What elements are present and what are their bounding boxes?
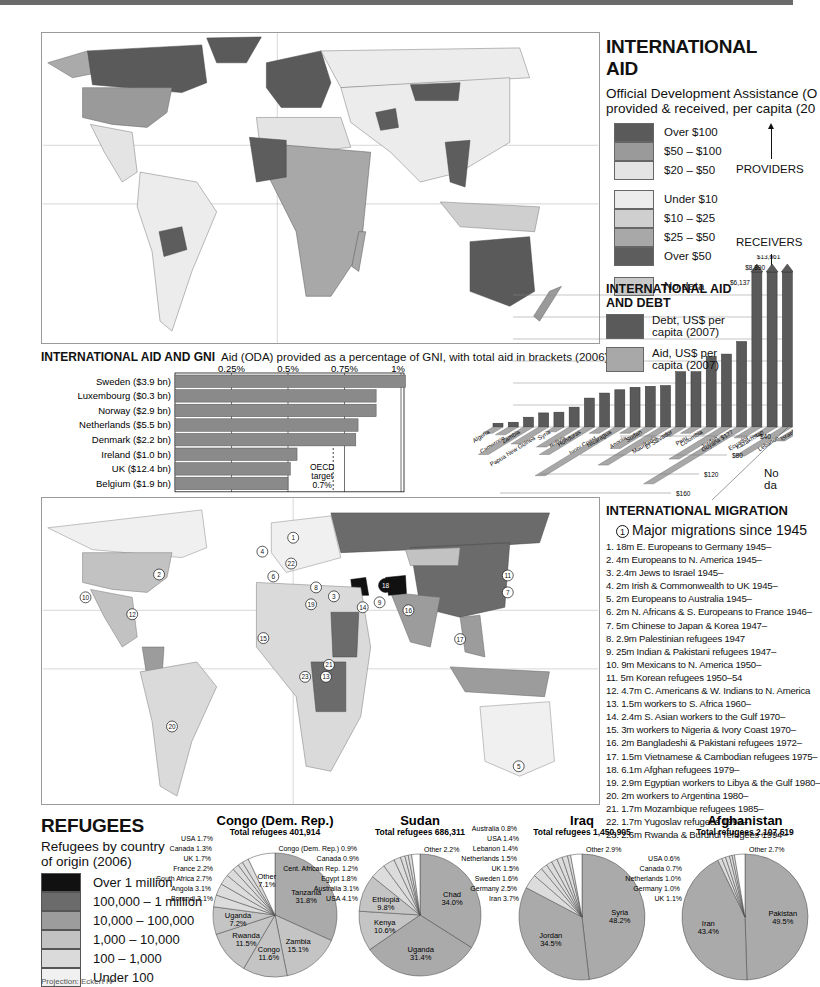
migration-marker[interactable]: 19 bbox=[306, 599, 317, 610]
region-mongolia-2[interactable] bbox=[405, 548, 460, 566]
migration-marker[interactable]: 15 bbox=[258, 633, 269, 644]
region-canada-2[interactable] bbox=[48, 510, 207, 558]
migration-marker[interactable]: 10 bbox=[80, 592, 91, 603]
svg-text:6: 6 bbox=[272, 573, 276, 580]
migration-marker[interactable]: 17 bbox=[455, 634, 466, 645]
migration-marker[interactable]: 2 bbox=[154, 569, 165, 580]
pie-slice-value: 31.4% bbox=[410, 953, 432, 962]
migration-marker[interactable]: 11 bbox=[502, 570, 513, 581]
migration-marker[interactable]: 18 bbox=[379, 578, 393, 592]
region-greenland[interactable] bbox=[207, 37, 262, 63]
migration-marker[interactable]: 3 bbox=[328, 591, 339, 602]
region-usa[interactable] bbox=[83, 88, 172, 128]
pie-chart-svg: SudanTotal refugees 686,311Chad34.0%Ugan… bbox=[335, 813, 491, 987]
pie-callout-label: Germany 2.5% bbox=[470, 885, 517, 893]
region-indonesia-2[interactable] bbox=[450, 667, 549, 697]
migration-marker[interactable]: 12 bbox=[127, 609, 138, 620]
provider-legend-label: $50 – $100 bbox=[664, 145, 722, 157]
gni-category-label: Netherlands ($5.5 bn) bbox=[79, 419, 171, 430]
migration-marker[interactable]: 20 bbox=[167, 721, 178, 732]
debt-annotation: $13,661 bbox=[757, 255, 781, 260]
projection-note: Projection: Eckert IV bbox=[41, 977, 113, 986]
gni-category-label: Norway ($2.9 bn) bbox=[98, 405, 171, 416]
region-africa-west[interactable] bbox=[249, 137, 286, 182]
svg-text:1: 1 bbox=[291, 534, 295, 541]
pie-callout-label: Other 2.9% bbox=[586, 846, 621, 853]
svg-text:20: 20 bbox=[168, 723, 176, 730]
migration-marker[interactable]: 1 bbox=[288, 532, 299, 543]
migration-marker[interactable]: 22 bbox=[286, 558, 297, 569]
debt-overflow-arrow-icon bbox=[766, 264, 778, 272]
region-mongolia[interactable] bbox=[410, 83, 460, 101]
migration-marker[interactable]: 14 bbox=[357, 602, 368, 613]
region-se-asia[interactable] bbox=[445, 140, 470, 187]
refugee-swatch bbox=[41, 949, 81, 968]
region-sudan-2[interactable] bbox=[331, 612, 359, 657]
migration-marker[interactable]: 23 bbox=[300, 671, 311, 682]
region-europe[interactable] bbox=[266, 51, 331, 108]
migration-marker[interactable]: 7 bbox=[502, 587, 513, 598]
migration-marker[interactable]: 13 bbox=[321, 671, 332, 682]
receiver-swatch bbox=[614, 228, 654, 247]
migration-marker[interactable]: 6 bbox=[268, 571, 279, 582]
provider-swatch bbox=[614, 142, 654, 161]
migration-marker[interactable]: 5 bbox=[513, 761, 524, 772]
svg-text:14: 14 bbox=[359, 604, 367, 611]
pie-callout-label: Canada 1.3% bbox=[170, 845, 212, 852]
migration-item: 8. 2.9m Palestinian refugees 1947 bbox=[606, 632, 793, 645]
region-india-2[interactable] bbox=[391, 592, 441, 647]
refugee-swatch bbox=[41, 911, 81, 930]
pie-slice-value: 15.1% bbox=[288, 945, 310, 954]
migration-item: 3. 2.4m Jews to Israel 1945– bbox=[606, 566, 793, 579]
svg-text:15: 15 bbox=[260, 635, 268, 642]
gni-xtick-label: 0.25% bbox=[218, 365, 245, 374]
migration-marker[interactable]: 21 bbox=[323, 659, 334, 670]
pie-callout-label: France 2.2% bbox=[173, 865, 213, 872]
gni-xtick-label: 0.5% bbox=[277, 365, 299, 374]
debt-bar bbox=[630, 387, 640, 427]
aid-axis-tick: $80 bbox=[732, 452, 743, 459]
refugees-subtitle: Refugees by countryof origin (2006) bbox=[41, 839, 191, 869]
migration-item: 17. 1.5m Vietnamese & Cambodian refugees… bbox=[606, 750, 793, 763]
migration-marker[interactable]: 8 bbox=[311, 582, 322, 593]
svg-text:21: 21 bbox=[325, 661, 333, 668]
pie-callout-label: UK 1.5% bbox=[491, 865, 519, 872]
refugee-swatch bbox=[41, 892, 81, 911]
migration-marker[interactable]: 16 bbox=[403, 605, 414, 616]
region-indonesia[interactable] bbox=[440, 202, 539, 232]
no-data-label: No da bbox=[764, 467, 793, 491]
migration-marker[interactable]: 4 bbox=[257, 546, 268, 557]
debt-bar bbox=[600, 393, 610, 427]
receiver-swatch bbox=[614, 209, 654, 228]
pie-slice-value: 34.0% bbox=[441, 898, 463, 907]
migration-marker[interactable]: 9 bbox=[374, 597, 385, 608]
pie-congo: Congo (Dem. Rep.)Total refugees 401,914T… bbox=[193, 813, 341, 987]
svg-text:7: 7 bbox=[506, 589, 510, 596]
pie-chart-svg: AfghanistanTotal refugees 2,107,519Pakis… bbox=[635, 813, 793, 987]
pie-callout-label: USA 1.4% bbox=[487, 835, 519, 842]
region-europe-2[interactable] bbox=[271, 516, 341, 573]
debt-title-1: INTERNATIONAL AID bbox=[606, 282, 731, 296]
pie-title: Afghanistan bbox=[707, 813, 782, 828]
pie-slice-value: 11.6% bbox=[258, 953, 279, 962]
pie-title: Sudan bbox=[400, 813, 440, 828]
pie-title: Iraq bbox=[570, 813, 594, 828]
gni-bar bbox=[175, 419, 358, 432]
pie-slice-value: 48.2% bbox=[609, 916, 631, 925]
migration-world-map[interactable]: 1234567891011121314151617181920212223 bbox=[41, 497, 600, 805]
gni-bar bbox=[175, 390, 376, 403]
pie-sudan: SudanTotal refugees 686,311Chad34.0%Ugan… bbox=[335, 813, 491, 987]
gni-bar bbox=[175, 463, 290, 476]
region-central-america[interactable] bbox=[90, 124, 137, 182]
debt-legend-title: INTERNATIONAL AIDAND DEBT bbox=[606, 282, 736, 310]
debt-category-label: Algeria bbox=[472, 428, 492, 443]
svg-text:4: 4 bbox=[261, 548, 265, 555]
pie-slice-value: 9.8% bbox=[377, 903, 394, 912]
pie-callout-label: Iran 3.7% bbox=[489, 895, 519, 902]
region-south-america-2[interactable] bbox=[140, 662, 217, 796]
migration-item: 9. 25m Indian & Pakistani refugees 1947– bbox=[606, 645, 793, 658]
svg-text:13: 13 bbox=[322, 673, 330, 680]
svg-text:8: 8 bbox=[314, 584, 318, 591]
region-canada[interactable] bbox=[88, 45, 207, 93]
svg-text:23: 23 bbox=[302, 673, 310, 680]
